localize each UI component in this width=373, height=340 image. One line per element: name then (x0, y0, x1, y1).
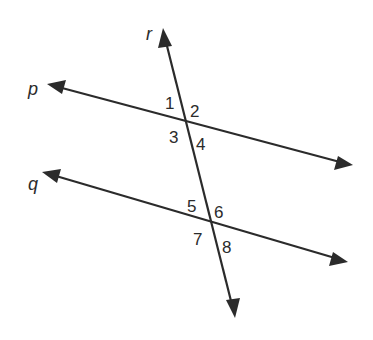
label-p: p (27, 79, 38, 99)
angle-5: 5 (187, 197, 196, 216)
line-r (166, 42, 232, 305)
angle-3: 3 (169, 128, 178, 147)
line-q-arrow-right-icon (329, 252, 348, 266)
angle-7: 7 (193, 230, 202, 249)
angle-8: 8 (222, 238, 231, 257)
line-r-arrow-top-icon (158, 28, 172, 48)
angle-1: 1 (165, 94, 174, 113)
label-q: q (28, 174, 38, 194)
angle-4: 4 (196, 135, 205, 154)
line-r-arrow-bottom-icon (226, 298, 240, 318)
parallel-lines-diagram: p q r 1 2 3 4 5 6 7 8 (0, 0, 373, 340)
line-q-arrow-left-icon (42, 169, 61, 183)
line-p-arrow-left-icon (47, 80, 66, 94)
line-p-arrow-right-icon (334, 156, 353, 170)
angle-6: 6 (214, 203, 223, 222)
angle-2: 2 (190, 102, 199, 121)
label-r: r (146, 24, 153, 44)
